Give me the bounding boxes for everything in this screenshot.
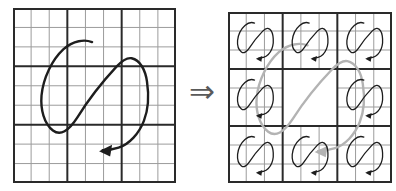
- arrowhead-icon: [256, 170, 262, 176]
- arrowhead-icon: [256, 56, 262, 62]
- arrowhead-icon: [99, 145, 112, 157]
- implies-arrow: ⇒: [183, 71, 221, 111]
- mini-circulation-curve: [347, 137, 383, 176]
- large-circulation-curve: [41, 41, 148, 157]
- mini-circulation-curve: [347, 23, 383, 62]
- arrowhead-icon: [365, 56, 371, 62]
- arrowhead-icon: [311, 170, 317, 176]
- right-grid-panel: [228, 12, 392, 183]
- left-fine-grid: [13, 8, 176, 183]
- figure-canvas: ⇒: [0, 0, 396, 191]
- mini-circulation-curve: [292, 137, 328, 176]
- arrowhead-icon: [365, 170, 371, 176]
- mini-circulation-curve: [292, 23, 328, 62]
- arrowhead-icon: [311, 56, 317, 62]
- mini-circulation-curve: [237, 137, 273, 176]
- left-block-grid: [13, 8, 176, 183]
- mini-circulation-curve: [237, 23, 273, 62]
- left-grid-panel: [13, 8, 176, 183]
- arrowhead-icon: [315, 146, 328, 157]
- arrowhead-icon: [365, 113, 371, 119]
